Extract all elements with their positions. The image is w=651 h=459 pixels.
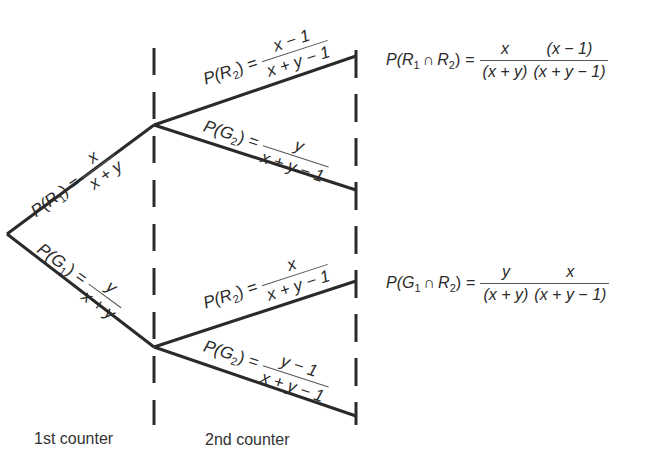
stage-caption-2nd-counter: 2nd counter bbox=[205, 431, 290, 449]
event1-letter: G bbox=[402, 274, 414, 291]
denominator: (x + y − 1) bbox=[530, 60, 608, 81]
result-formula-G1-R2: P(G1∩R2)=y(x + y)x(x + y − 1) bbox=[386, 263, 609, 304]
numerator: x bbox=[480, 40, 531, 60]
event2-letter: R bbox=[437, 51, 449, 68]
result-formula-R1-R2: P(R1∩R2)=x(x + y)(x − 1)(x + y − 1) bbox=[386, 40, 608, 81]
event2-letter: R bbox=[438, 274, 450, 291]
p-symbol: P( bbox=[386, 51, 402, 68]
numerator: x bbox=[531, 263, 609, 283]
fraction-2: (x − 1)(x + y − 1) bbox=[530, 40, 608, 81]
equals-sign: = bbox=[466, 274, 475, 291]
close-paren: ) bbox=[455, 51, 460, 68]
numerator: y bbox=[480, 263, 531, 283]
fraction-1: x(x + y) bbox=[480, 40, 531, 81]
equals-sign: = bbox=[246, 131, 261, 152]
denominator: (x + y) bbox=[480, 283, 531, 304]
denominator: (x + y − 1) bbox=[531, 283, 609, 304]
fraction-2: x(x + y − 1) bbox=[531, 263, 609, 304]
close-paren: ) bbox=[236, 348, 247, 368]
numerator: (x − 1) bbox=[530, 40, 608, 60]
equals-sign: = bbox=[465, 51, 474, 68]
event1-subscript: 1 bbox=[414, 282, 420, 294]
p-symbol: P( bbox=[386, 274, 402, 291]
intersection-symbol: ∩ bbox=[423, 51, 435, 68]
equals-sign: = bbox=[245, 277, 260, 298]
fraction-1: y(x + y) bbox=[480, 263, 531, 304]
event1-subscript: 1 bbox=[414, 59, 420, 71]
equals-sign: = bbox=[246, 351, 261, 372]
intersection-symbol: ∩ bbox=[424, 274, 436, 291]
event1-letter: R bbox=[402, 51, 414, 68]
close-paren: ) bbox=[236, 128, 247, 148]
denominator: (x + y) bbox=[480, 60, 531, 81]
stage-caption-1st-counter: 1st counter bbox=[34, 430, 113, 448]
equals-sign: = bbox=[245, 53, 260, 74]
close-paren: ) bbox=[456, 274, 461, 291]
